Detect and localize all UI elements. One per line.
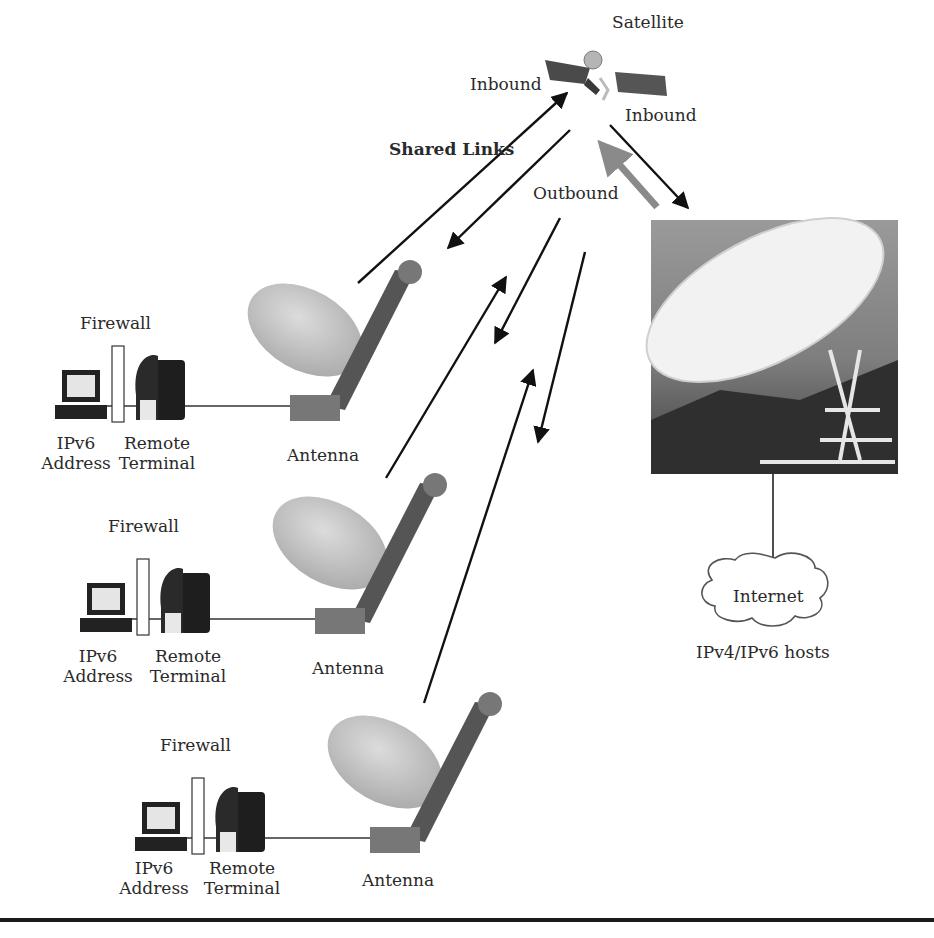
ipv6-address-label-2: IPv6Address	[62, 646, 134, 686]
inbound-right-label: Inbound	[625, 105, 697, 125]
ground-station-dish-image	[621, 184, 909, 474]
firewall-icon	[112, 346, 124, 422]
terminal-line1: Remote	[200, 858, 284, 878]
ipv6-address-label-3: IPv6Address	[118, 858, 190, 898]
antenna-label-3: Antenna	[362, 870, 434, 890]
bottom-rule	[0, 918, 934, 922]
firewall-label-2: Firewall	[108, 516, 179, 536]
firewall-label-3: Firewall	[160, 735, 231, 755]
host-line1: IPv6	[62, 646, 134, 666]
inbound-left-label: Inbound	[470, 74, 542, 94]
terminal-line2: Terminal	[146, 666, 230, 686]
host-line2: Address	[62, 666, 134, 686]
remote-site-3	[135, 692, 502, 854]
terminal-line1: Remote	[115, 433, 199, 453]
computer-icon	[55, 370, 107, 419]
host-line1: IPv6	[118, 858, 190, 878]
remote-terminal-label-2: RemoteTerminal	[146, 646, 230, 686]
host-line2: Address	[118, 878, 190, 898]
remote-terminal-icon	[135, 355, 185, 420]
remote-terminal-label-1: RemoteTerminal	[115, 433, 199, 473]
antenna-label-2: Antenna	[312, 658, 384, 678]
remote-site-2	[80, 473, 447, 635]
terminal-line2: Terminal	[200, 878, 284, 898]
host-line2: Address	[40, 453, 112, 473]
host-line1: IPv6	[40, 433, 112, 453]
antenna-label-1: Antenna	[287, 445, 359, 465]
antenna-icon	[231, 260, 422, 421]
satellite-icon	[545, 51, 667, 100]
remote-site-1	[55, 260, 422, 422]
shared-links-label: Shared Links	[389, 139, 514, 159]
firewall-label-1: Firewall	[80, 313, 151, 333]
hosts-label: IPv4/IPv6 hosts	[696, 642, 830, 662]
terminal-line1: Remote	[146, 646, 230, 666]
satellite-label: Satellite	[612, 12, 684, 32]
terminal-line2: Terminal	[115, 453, 199, 473]
remote-terminal-label-3: RemoteTerminal	[200, 858, 284, 898]
internet-label: Internet	[733, 586, 804, 606]
outbound-label: Outbound	[533, 183, 619, 203]
ipv6-address-label-1: IPv6Address	[40, 433, 112, 473]
